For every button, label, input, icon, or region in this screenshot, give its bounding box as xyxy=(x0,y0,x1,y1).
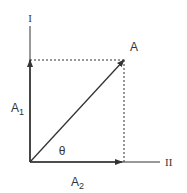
axis-I-label: I xyxy=(28,12,32,24)
axis-II-label: II xyxy=(165,156,173,168)
component-A1-label: A1 xyxy=(11,101,24,117)
vector-A-label: A xyxy=(130,40,138,54)
A2-main: A xyxy=(71,175,79,189)
angle-theta-label: θ xyxy=(59,144,66,158)
A2-subscript: 2 xyxy=(79,181,84,191)
A1-main: A xyxy=(11,101,19,115)
vector-A-arrow xyxy=(30,60,124,162)
vector-diagram: I II A θ A1 A2 xyxy=(0,0,187,193)
component-A2-label: A2 xyxy=(71,175,84,191)
A1-subscript: 1 xyxy=(19,107,24,117)
